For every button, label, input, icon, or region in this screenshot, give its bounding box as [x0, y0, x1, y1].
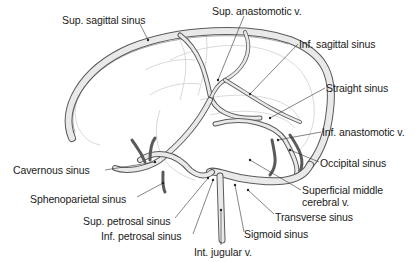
label-sup-petrosal-sinus: Sup. petrosal sinus	[83, 215, 170, 227]
venous-sinus-diagram: Sup. sagittal sinus Sup. anastomotic v. …	[0, 0, 416, 262]
label-occipital-sinus: Occipital sinus	[320, 157, 386, 169]
label-sup-sagittal-sinus: Sup. sagittal sinus	[62, 14, 145, 26]
label-inf-sagittal-sinus: Inf. sagittal sinus	[299, 38, 375, 50]
label-inf-petrosal-sinus: Inf. petrosal sinus	[101, 230, 181, 242]
label-int-jugular-v: Int. jugular v.	[194, 246, 252, 258]
label-transverse-sinus: Transverse sinus	[275, 211, 353, 223]
label-cavernous-sinus: Cavernous sinus	[13, 164, 90, 176]
label-sup-anastomotic-v: Sup. anastomotic v.	[212, 5, 302, 17]
label-straight-sinus: Straight sinus	[326, 82, 388, 94]
label-sphenoparietal-sinus: Sphenoparietal sinus	[30, 193, 126, 205]
label-inf-anastomotic-v: Inf. anastomotic v.	[322, 126, 405, 138]
label-sigmoid-sinus: Sigmoid sinus	[244, 228, 308, 240]
label-superficial-middle-cerebral-v: Superficial middle cerebral v.	[302, 184, 412, 208]
